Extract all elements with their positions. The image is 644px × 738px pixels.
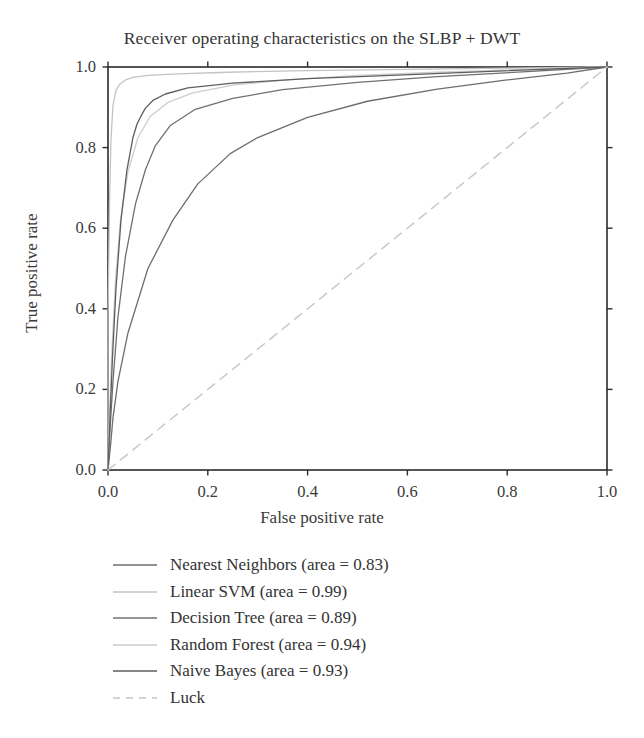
- legend-label: Random Forest (area = 0.94): [170, 635, 366, 655]
- x-tick-label: 1.0: [577, 482, 637, 502]
- legend-item: Decision Tree (area = 0.89): [112, 605, 532, 632]
- y-tick-label: 0.6: [36, 218, 96, 238]
- series-line-luck: [108, 67, 607, 470]
- roc-figure: Receiver operating characteristics on th…: [0, 0, 644, 738]
- x-tick-label: 0.8: [477, 482, 537, 502]
- legend-item: Random Forest (area = 0.94): [112, 632, 532, 659]
- y-tick-label: 0.8: [36, 138, 96, 158]
- legend-line-sample: [112, 662, 158, 680]
- y-axis-label: True positive rate: [22, 163, 42, 383]
- x-tick-label: 0.4: [278, 482, 338, 502]
- legend-label: Linear SVM (area = 0.99): [170, 582, 347, 602]
- legend-item: Luck: [112, 685, 532, 712]
- legend-line-sample: [112, 689, 158, 707]
- legend-item: Nearest Neighbors (area = 0.83): [112, 552, 532, 579]
- y-tick-label: 0.4: [36, 299, 96, 319]
- legend-line-sample: [112, 583, 158, 601]
- legend-line-sample: [112, 609, 158, 627]
- x-tick-label: 0.6: [377, 482, 437, 502]
- legend-label: Nearest Neighbors (area = 0.83): [170, 555, 389, 575]
- chart-legend: Nearest Neighbors (area = 0.83)Linear SV…: [112, 552, 532, 711]
- legend-line-sample: [112, 556, 158, 574]
- legend-label: Luck: [170, 688, 205, 708]
- y-tick-label: 0.2: [36, 379, 96, 399]
- y-tick-label: 0.0: [36, 460, 96, 480]
- x-tick-label: 0.2: [178, 482, 238, 502]
- legend-label: Naive Bayes (area = 0.93): [170, 661, 348, 681]
- x-axis-label: False positive rate: [0, 508, 644, 528]
- x-tick-label: 0.0: [78, 482, 138, 502]
- legend-line-sample: [112, 636, 158, 654]
- legend-item: Naive Bayes (area = 0.93): [112, 658, 532, 685]
- y-tick-label: 1.0: [36, 57, 96, 77]
- legend-item: Linear SVM (area = 0.99): [112, 579, 532, 606]
- legend-label: Decision Tree (area = 0.89): [170, 608, 357, 628]
